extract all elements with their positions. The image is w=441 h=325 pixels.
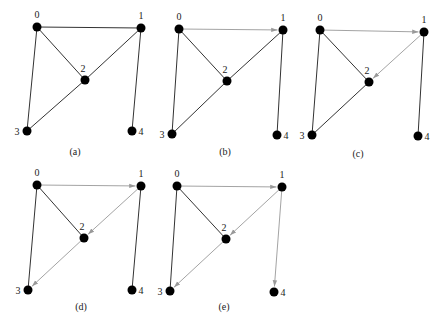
node-1 [137,182,146,191]
edge-1-4 [132,28,141,131]
panel-b: 01234(b) [160,11,289,158]
node-label-1: 1 [280,169,285,180]
node-2 [80,234,89,243]
node-4 [414,132,423,141]
node-label-3: 3 [15,126,20,137]
edge-1-2 [227,30,283,81]
node-0 [316,26,325,35]
node-label-0: 0 [35,167,40,178]
traversed-edge-1-4 [274,187,282,287]
panel-caption: (a) [69,146,80,158]
traversed-edge-1-2 [88,186,141,234]
panel-caption: (d) [75,301,87,313]
panel-a: 01234(a) [15,9,146,158]
node-4 [128,127,137,136]
edge-2-3 [172,81,227,134]
node-1 [278,183,287,192]
edge-0-1 [37,27,141,28]
node-4 [270,288,279,297]
panel-caption: (c) [352,148,363,160]
node-3 [23,127,32,136]
edge-0-2 [37,185,84,238]
node-1 [279,26,288,35]
node-label-2: 2 [365,65,370,76]
panel-caption: (b) [219,146,231,158]
node-label-3: 3 [160,129,165,140]
traversed-edge-0-1 [177,186,277,187]
edge-0-3 [28,185,37,290]
node-label-0: 0 [177,11,182,22]
edge-0-2 [179,29,227,81]
node-label-4: 4 [425,131,430,142]
edge-0-2 [177,186,226,239]
node-3 [308,131,317,140]
traversed-edge-0-1 [320,30,419,32]
node-label-3: 3 [158,286,163,297]
node-label-2: 2 [80,221,85,232]
traversed-edge-2-3 [32,238,84,286]
edge-0-3 [172,29,179,134]
edge-0-3 [312,30,320,135]
node-label-1: 1 [281,12,286,23]
node-0 [175,25,184,34]
node-label-4: 4 [281,287,286,298]
node-label-3: 3 [300,130,305,141]
edge-1-2 [85,28,141,80]
node-2 [365,78,374,87]
node-label-0: 0 [175,168,180,179]
node-label-1: 1 [139,168,144,179]
node-2 [223,77,232,86]
panel-c: 01234(c) [300,12,430,160]
node-label-0: 0 [318,12,323,23]
edge-2-3 [27,80,85,131]
edge-1-4 [418,32,424,136]
node-0 [33,23,42,32]
node-1 [137,24,146,33]
edge-1-4 [277,30,283,135]
node-label-1: 1 [422,14,427,25]
node-label-4: 4 [139,126,144,137]
edge-0-3 [170,186,177,291]
node-0 [33,181,42,190]
node-label-4: 4 [284,130,289,141]
traversed-edge-1-2 [373,32,424,78]
node-4 [273,131,282,140]
panel-e: 01234(e) [158,168,287,313]
traversed-edge-2-3 [174,239,226,287]
traversed-edge-0-1 [179,29,278,30]
node-2 [222,235,231,244]
node-label-2: 2 [223,64,228,75]
node-label-3: 3 [16,285,21,296]
panel-d: 01234(d) [16,167,146,313]
node-0 [173,182,182,191]
panel-caption: (e) [218,301,229,313]
node-label-0: 0 [35,9,40,20]
edge-0-2 [320,30,369,82]
edge-1-4 [132,186,141,290]
node-4 [128,286,137,295]
node-3 [166,287,175,296]
node-label-2: 2 [81,63,86,74]
traversed-edge-0-1 [37,185,136,186]
node-3 [168,130,177,139]
node-1 [420,28,429,37]
node-label-4: 4 [139,285,144,296]
node-label-2: 2 [222,222,227,233]
node-label-1: 1 [139,10,144,21]
edge-2-3 [312,82,369,135]
node-2 [81,76,90,85]
traversed-edge-1-2 [230,187,282,235]
edge-0-3 [27,27,37,131]
edge-0-2 [37,27,85,80]
node-3 [24,286,33,295]
graph-traversal-figure: 01234(a)01234(b)01234(c)01234(d)01234(e) [0,0,441,325]
